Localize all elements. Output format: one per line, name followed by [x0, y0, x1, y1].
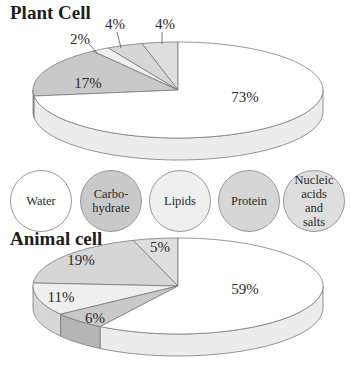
legend-label-protein: Protein — [231, 194, 267, 208]
legend-label-carbohydrate: Carbo- hydrate — [92, 187, 129, 215]
legend-water: Water — [10, 170, 72, 232]
legend-protein: Protein — [218, 170, 280, 232]
plant-cell-pie — [33, 42, 323, 160]
legend-nucleic-acids: Nucleic acids and salts — [283, 170, 345, 232]
plant-label-lipids: 2% — [70, 31, 90, 47]
plant-label-carbohydrate: 17% — [74, 75, 102, 91]
plant-label-water: 73% — [231, 89, 259, 105]
legend-label-lipids: Lipids — [164, 194, 196, 208]
animal-label-water: 59% — [231, 281, 259, 297]
plant-label-nucleic: 4% — [155, 16, 175, 32]
animal-label-lipids: 11% — [48, 289, 75, 305]
legend-label-nucleic-acids: Nucleic acids and salts — [295, 173, 334, 229]
legend: Water Carbo- hydrate Lipids Protein Nucl… — [0, 170, 351, 230]
plant-label-protein: 4% — [105, 16, 125, 32]
animal-label-protein: 19% — [67, 252, 95, 268]
legend-lipids: Lipids — [149, 170, 211, 232]
animal-label-carbohydrate: 6% — [85, 310, 105, 326]
leader-line — [117, 32, 121, 48]
legend-carbohydrate: Carbo- hydrate — [80, 170, 142, 232]
animal-label-nucleic: 5% — [150, 239, 170, 255]
legend-label-water: Water — [26, 194, 56, 208]
